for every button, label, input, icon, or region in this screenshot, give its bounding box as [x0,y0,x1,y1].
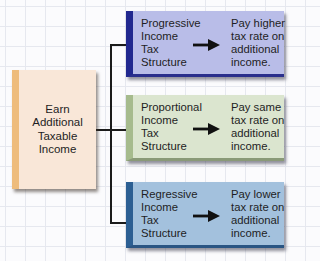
right-arrow-icon [193,39,220,51]
right-arrow-icon [193,123,220,135]
connector-vertical-trunk [110,44,112,224]
progressive-tax-box: Progressive Income Tax Structure Pay hig… [126,11,284,77]
regressive-tax-effect: Pay lower tax rate on additional income. [231,188,291,240]
connector-to-progressive [110,44,126,46]
proportional-tax-box: Proportional Income Tax Structure Pay sa… [126,95,284,161]
connector-to-proportional [110,129,126,131]
connector-to-regressive [110,222,126,224]
source-label: Earn Additional Taxable Income [32,103,83,157]
connector-source-stem [96,129,111,131]
right-arrow-icon [193,210,220,222]
regressive-tax-box: Regressive Income Tax Structure Pay lowe… [126,182,284,248]
earn-additional-income-box: Earn Additional Taxable Income [12,70,96,189]
proportional-tax-effect: Pay same tax rate on additional income. [231,101,291,153]
progressive-tax-effect: Pay higher tax rate on additional income… [231,17,291,69]
